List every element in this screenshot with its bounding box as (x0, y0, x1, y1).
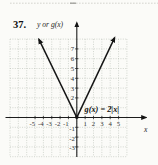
x-tick-label: 1 (83, 120, 86, 127)
function-graph: -5-4-3-2-112345765432-1-2-3 37. y or g(x… (0, 0, 158, 165)
y-tick-label: -2 (69, 135, 75, 142)
x-tick-label: 3 (100, 120, 104, 127)
x-tick-label: 2 (92, 120, 96, 127)
y-axis-title: y or g(x) (36, 20, 64, 29)
y-tick-label: 6 (71, 55, 75, 62)
x-tick-label: -3 (46, 120, 52, 127)
y-tick-label: -3 (69, 144, 75, 151)
y-tick-label: 5 (71, 65, 75, 72)
y-tick-label: 3 (71, 85, 75, 92)
vertex-point (75, 116, 79, 120)
x-tick-label: -4 (38, 120, 44, 127)
x-tick-label: -2 (55, 120, 61, 127)
x-tick-label: -1 (63, 120, 69, 127)
y-tick-label: 2 (71, 94, 75, 101)
function-equation-label: g(x) = 2|x| (84, 105, 120, 114)
x-tick-label: -5 (30, 120, 36, 127)
textbook-figure: -5-4-3-2-112345765432-1-2-3 37. y or g(x… (0, 0, 158, 165)
y-tick-label: 4 (71, 75, 75, 82)
y-tick-label: 7 (71, 45, 75, 52)
x-axis-title: x (143, 125, 148, 134)
y-tick-label: -1 (69, 125, 75, 132)
problem-number: 37. (13, 19, 27, 30)
x-tick-label: 4 (108, 120, 112, 127)
x-tick-label: 5 (117, 120, 121, 127)
